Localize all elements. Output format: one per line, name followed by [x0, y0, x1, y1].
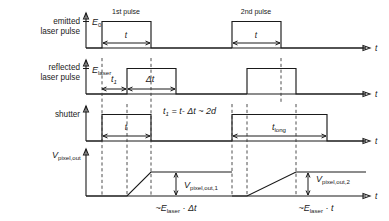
t1-delay-label: t1	[111, 74, 117, 85]
shutter-long-window-waveform	[232, 115, 366, 142]
emitted-pulse-1-width-dim: t	[103, 30, 150, 46]
shutter-short-window-waveform	[86, 115, 232, 142]
row-label-reflected-line1: reflected	[49, 63, 81, 72]
emitted-pulse-1-width-label: t	[125, 30, 128, 40]
reflected-pulse-2-waveform	[247, 69, 366, 95]
emitted-pulse-2-waveform	[232, 22, 366, 49]
delta-t-dim: Δt	[128, 74, 175, 91]
timing-diagram-figure: emitted laser pulse E0 t 1st pulse t 2nd…	[0, 0, 389, 221]
x-axis-label-pixel-out: t	[375, 191, 378, 201]
vout2-label: Vpixel,out,2	[316, 174, 350, 185]
row-pixel-output: Vpixel,out t Vpixel,out,1 Vpixel,out,2 ~…	[52, 149, 378, 214]
second-pulse-label: 2nd pulse	[241, 8, 271, 16]
proportional-label-1: ~Elaser · Δt	[155, 203, 197, 214]
alignment-guides	[102, 58, 296, 196]
y-axis-label-Vpixelout: Vpixel,out	[52, 150, 81, 161]
delta-t-label: Δt	[145, 74, 155, 84]
row-emitted-laser-pulse: emitted laser pulse E0 t 1st pulse t 2nd…	[40, 8, 378, 53]
emitted-pulse-1-waveform	[86, 22, 232, 49]
row-label-emitted-line1: emitted	[53, 17, 80, 26]
shutter-formula: t1 = t- Δt ~ 2d	[163, 106, 217, 117]
row-label-emitted-line2: laser pulse	[40, 27, 80, 36]
vout1-label: Vpixel,out,1	[184, 180, 218, 191]
proportional-label-2: ~Elaser · t	[299, 203, 334, 214]
row-shutter: shutter t t t1 = t- Δt ~ 2d tlong	[55, 106, 378, 146]
x-axis-label-shutter: t	[375, 136, 378, 146]
y-axis-label-E0: E0	[92, 17, 102, 28]
x-axis-label-emitted: t	[375, 43, 378, 53]
vout2-dim: Vpixel,out,2	[306, 173, 350, 195]
vout1-dim: Vpixel,out,1	[174, 173, 218, 195]
shutter-long-width-label: tlong	[272, 122, 286, 133]
emitted-pulse-2-width-label: t	[255, 30, 258, 40]
row-label-shutter: shutter	[55, 110, 80, 119]
row-label-reflected-line2: laser pulse	[40, 73, 80, 82]
row-reflected-laser-pulse: reflected laser pulse Elaser t t1 Δt	[40, 60, 378, 99]
emitted-pulse-2-width-dim: t	[233, 30, 280, 46]
shutter-short-width-dim: t	[103, 122, 150, 138]
diagram-canvas: emitted laser pulse E0 t 1st pulse t 2nd…	[0, 0, 389, 221]
x-axis-label-reflected: t	[375, 89, 378, 99]
t1-delay-dim: t1	[102, 74, 126, 91]
first-pulse-label: 1st pulse	[112, 8, 140, 16]
